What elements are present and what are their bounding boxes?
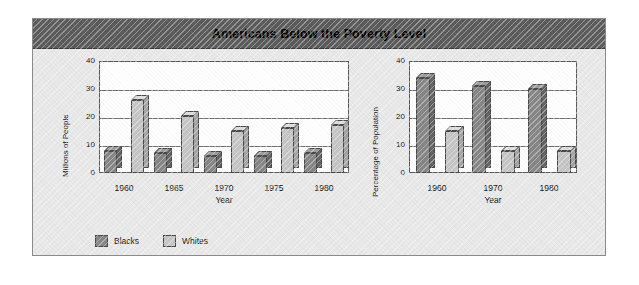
- bar-side-face: [194, 111, 199, 168]
- bar-front-face: [331, 125, 344, 173]
- bar-front-face: [254, 156, 267, 173]
- legend-swatch-blacks: [95, 235, 108, 247]
- bar-side-face: [294, 123, 299, 168]
- bar-whites-1970: [501, 151, 515, 173]
- gridline: [410, 146, 576, 147]
- bar-blacks-1970: [472, 86, 486, 173]
- y-tick-label: 10: [73, 141, 95, 149]
- legend: Blacks Whites: [95, 235, 208, 247]
- x-tick-label-1980: 1980: [294, 183, 354, 193]
- gridline: [410, 118, 576, 119]
- bar-whites-1960: [131, 100, 144, 173]
- bar-front-face: [104, 151, 117, 173]
- bar-front-face: [472, 86, 486, 173]
- y-tick-label: 30: [73, 85, 95, 93]
- x-tick-label-1980: 1980: [518, 183, 581, 193]
- x-axis-title-left: Year: [99, 195, 349, 205]
- bar-whites-1980: [557, 151, 571, 173]
- bar-front-face: [181, 116, 194, 173]
- charts-row: Millions of People 010203040 19601965197…: [33, 49, 605, 257]
- bar-front-face: [557, 151, 571, 173]
- bar-blacks-1975: [254, 156, 267, 173]
- bar-front-face: [528, 89, 542, 173]
- bar-blacks-1980: [304, 153, 317, 173]
- y-tick-label: 30: [383, 85, 405, 93]
- bar-side-face: [542, 84, 547, 168]
- bar-whites-1970: [231, 131, 244, 173]
- y-tick-label: 20: [73, 113, 95, 121]
- legend-item-blacks: Blacks: [95, 235, 139, 247]
- title-banner: Americans Below the Poverty Level: [33, 19, 605, 49]
- bar-side-face: [244, 126, 249, 168]
- legend-label-whites: Whites: [182, 236, 208, 246]
- bar-front-face: [154, 153, 167, 173]
- bar-front-face: [204, 156, 217, 173]
- bar-side-face: [459, 126, 464, 168]
- bar-front-face: [281, 128, 294, 173]
- legend-label-blacks: Blacks: [114, 236, 139, 246]
- y-tick-label: 10: [383, 141, 405, 149]
- bar-side-face: [430, 73, 435, 168]
- bar-blacks-1960: [104, 151, 117, 173]
- bar-whites-1965: [181, 116, 194, 173]
- gridline: [100, 90, 348, 91]
- bar-blacks-1970: [204, 156, 217, 173]
- x-tick-label-1970: 1970: [462, 183, 525, 193]
- bar-side-face: [486, 81, 491, 168]
- bar-front-face: [501, 151, 515, 173]
- chart-percentage-of-population: Percentage of Population 010203040 19601…: [369, 49, 584, 257]
- page-title: Americans Below the Poverty Level: [212, 27, 427, 41]
- chart-millions-of-people: Millions of People 010203040 19601965197…: [57, 49, 357, 257]
- bar-front-face: [131, 100, 144, 173]
- figure-frame: Americans Below the Poverty Level Millio…: [32, 18, 606, 256]
- bar-side-face: [344, 120, 349, 168]
- bar-blacks-1980: [528, 89, 542, 173]
- bar-front-face: [445, 131, 459, 173]
- x-tick-label-1960: 1960: [406, 183, 469, 193]
- y-axis-title-right: Percentage of Population: [371, 107, 380, 197]
- legend-swatch-whites: [163, 235, 176, 247]
- bar-side-face: [144, 95, 149, 168]
- y-tick-label: 0: [73, 169, 95, 177]
- y-tick-label: 0: [383, 169, 405, 177]
- bar-whites-1980: [331, 125, 344, 173]
- bar-whites-1975: [281, 128, 294, 173]
- legend-item-whites: Whites: [163, 235, 208, 247]
- y-axis-title-left: Millions of People: [61, 114, 70, 177]
- y-tick-label: 40: [73, 57, 95, 65]
- x-axis-title-right: Year: [409, 195, 577, 205]
- bar-front-face: [416, 78, 430, 173]
- bar-blacks-1960: [416, 78, 430, 173]
- bar-front-face: [231, 131, 244, 173]
- gridline: [410, 90, 576, 91]
- bar-front-face: [304, 153, 317, 173]
- bar-blacks-1965: [154, 153, 167, 173]
- y-tick-label: 20: [383, 113, 405, 121]
- bar-whites-1960: [445, 131, 459, 173]
- y-tick-label: 40: [383, 57, 405, 65]
